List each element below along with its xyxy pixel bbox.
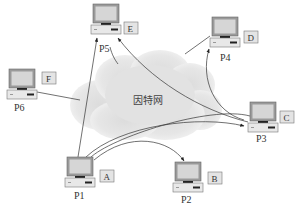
node-p2: B P2 xyxy=(173,162,222,205)
tag-f: F xyxy=(46,74,51,84)
label-p2: P2 xyxy=(181,194,192,205)
label-p5: P5 xyxy=(99,43,110,54)
cloud-label: 因特网 xyxy=(133,95,163,106)
tag-a: A xyxy=(104,172,111,182)
node-p6: F P6 xyxy=(7,69,56,113)
node-p5: E P5 xyxy=(91,4,138,54)
network-diagram: 因特网 E P5 D P4 F P6 C P3 xyxy=(0,0,300,210)
edge-p1-p2 xyxy=(94,141,184,161)
label-p4: P4 xyxy=(220,52,231,63)
tag-d: D xyxy=(248,33,255,43)
label-p3: P3 xyxy=(256,133,267,144)
tag-c: C xyxy=(284,113,290,123)
label-p6: P6 xyxy=(14,102,25,113)
tag-e: E xyxy=(128,24,134,34)
label-p1: P1 xyxy=(74,190,85,201)
node-p1: A P1 xyxy=(65,157,114,201)
node-p4: D P4 xyxy=(210,17,258,63)
edge-p4-cloud xyxy=(185,36,210,54)
tag-b: B xyxy=(212,174,218,184)
node-p3: C P3 xyxy=(248,102,294,144)
